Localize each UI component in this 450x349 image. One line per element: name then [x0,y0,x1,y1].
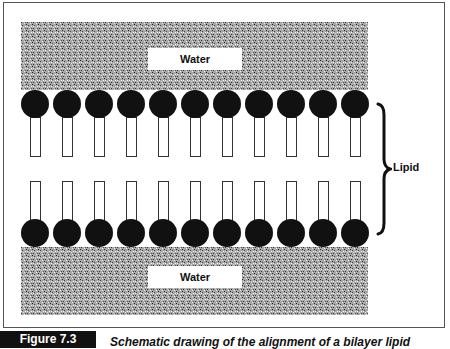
top-water-label: Water [148,48,242,70]
lipid-tail [62,117,73,157]
lipid-tail [254,117,265,157]
lipid-head [245,219,273,247]
lipid-tail [318,181,329,221]
bottom-water-region: Water [21,247,368,315]
lipid-head [309,219,337,247]
lipid-head [53,219,81,247]
lipid-tail [222,117,233,157]
lipid-tail [190,117,201,157]
lipid-head [341,219,369,247]
lipid-head [149,90,177,118]
lipid-head [85,90,113,118]
lipid-head [53,90,81,118]
lipid-tail [30,181,41,221]
lipid-head [213,219,241,247]
lipid-tail [94,181,105,221]
lipid-tail [158,117,169,157]
lipid-tail [350,117,361,157]
lipid-tail [30,117,41,157]
lipid-head [213,90,241,118]
lipid-head [85,219,113,247]
lipid-head [277,90,305,118]
lipid-head [117,90,145,118]
lipid-label: Lipid [393,161,419,173]
lipid-tail [190,181,201,221]
lipid-tail [94,117,105,157]
lipid-head [181,219,209,247]
top-water-region: Water [21,22,368,90]
lipid-head [117,219,145,247]
lipid-head [245,90,273,118]
lipid-tail [286,117,297,157]
lipid-head [21,219,49,247]
figure-caption: Schematic drawing of the alignment of a … [110,335,410,349]
lipid-tail [126,117,137,157]
lipid-tail [286,181,297,221]
lipid-head [341,90,369,118]
lipid-head [309,90,337,118]
lipid-head [181,90,209,118]
lipid-tail [158,181,169,221]
lipid-tail [318,117,329,157]
lipid-tail [126,181,137,221]
figure-number-badge: Figure 7.3 [0,331,96,348]
curly-brace-icon [372,101,392,237]
bottom-water-label: Water [148,266,242,288]
lipid-tail [222,181,233,221]
lipid-tail [62,181,73,221]
lipid-tail [350,181,361,221]
lipid-head [277,219,305,247]
lipid-tail [254,181,265,221]
lipid-head [149,219,177,247]
lipid-head [21,90,49,118]
